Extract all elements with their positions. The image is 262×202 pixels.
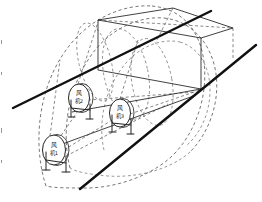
scan-speck-1 <box>1 40 2 44</box>
fan-2-label-line2: 机2 <box>75 97 83 105</box>
scan-artifact-group <box>1 40 2 163</box>
fan-3-label-line1: 风 <box>117 104 123 112</box>
airflow-arc-outer-fan2-return <box>70 152 190 176</box>
fan-3-group[interactable]: 风 机3 <box>109 99 134 135</box>
lower-boundary-line <box>80 45 256 189</box>
scan-speck-2 <box>1 72 2 75</box>
fan-1-group[interactable]: 风 机1 <box>42 135 70 173</box>
airflow-ray-fan3-to-far <box>130 90 200 114</box>
room-volume-group <box>57 8 233 146</box>
fan-1-label-line1: 风 <box>51 141 57 149</box>
fan-1-label-line2: 机1 <box>50 149 58 157</box>
airflow-ray-fan1-up <box>50 60 60 136</box>
figure-canvas: 风 机1 风 机2 风 机3 <box>0 0 262 202</box>
upper-boundary-line <box>13 11 211 108</box>
fan-3-label-line2: 机3 <box>116 112 124 120</box>
scan-speck-4 <box>1 160 2 163</box>
box-top-edge-front-right <box>201 28 233 38</box>
fan-2-label-line1: 风 <box>76 89 82 97</box>
scan-speck-3 <box>1 128 2 133</box>
airflow-arc-mid <box>102 41 180 150</box>
fan-airflow-diagram: 风 机1 风 机2 风 机3 <box>0 0 262 202</box>
fan-2-group[interactable]: 风 机2 <box>68 84 93 120</box>
